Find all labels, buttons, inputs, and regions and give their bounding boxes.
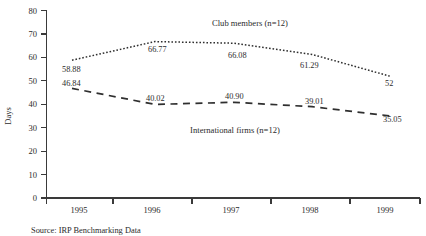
x-tick-label-1999: 1999 (377, 205, 394, 215)
club-members-value-labels: 58.88 66.77 66.08 61.29 52 (62, 45, 393, 88)
line-chart: 80 70 60 50 40 30 20 10 0 Days 1995 1996… (0, 0, 426, 236)
source-note: Source: IRP Benchmarking Data (31, 226, 141, 235)
value-label: 46.84 (62, 79, 82, 88)
x-tick-label-1995: 1995 (71, 205, 88, 215)
value-label: 52 (385, 79, 393, 88)
chart-figure: 80 70 60 50 40 30 20 10 0 Days 1995 1996… (0, 0, 426, 236)
y-axis-tick-labels: 80 70 60 50 40 30 20 10 0 (29, 6, 38, 204)
x-tick-label-1997: 1997 (223, 205, 240, 215)
y-tick-label: 50 (29, 76, 38, 86)
series-annotation-international-firms: International firms (n=12) (190, 125, 280, 135)
value-label: 39.01 (305, 97, 324, 106)
y-tick-label: 40 (29, 99, 38, 109)
x-tick-label-1998: 1998 (302, 205, 319, 215)
value-label: 58.88 (62, 65, 81, 74)
y-tick-label: 10 (29, 170, 38, 180)
value-label: 66.08 (228, 51, 247, 60)
value-label: 40.90 (225, 92, 244, 101)
series-annotation-club-members: Club members (n=12) (212, 18, 288, 28)
value-label: 61.29 (300, 61, 319, 70)
y-tick-label: 60 (29, 52, 38, 62)
x-axis-ticks (47, 198, 421, 204)
value-label: 66.77 (148, 45, 167, 54)
y-tick-label: 80 (29, 6, 38, 16)
y-tick-label: 20 (29, 146, 38, 156)
value-label: 35.05 (383, 115, 402, 124)
international-firms-value-labels: 46.84 40.02 40.90 39.01 35.05 (62, 79, 402, 124)
y-axis-title: Days (3, 107, 13, 124)
y-tick-label: 0 (33, 193, 37, 203)
y-tick-label: 70 (29, 29, 38, 39)
x-tick-label-1996: 1996 (144, 205, 161, 215)
y-axis-ticks (41, 11, 47, 198)
value-label: 40.02 (146, 94, 165, 103)
y-tick-label: 30 (29, 123, 38, 133)
x-axis-tick-labels: 1995 1996 1997 1998 1999 (71, 205, 394, 215)
